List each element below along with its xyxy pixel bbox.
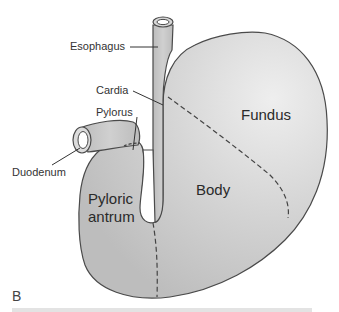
label-pyloric-antrum-line1: Pyloric [88, 190, 134, 207]
caption-cutoff [12, 308, 312, 312]
label-cardia: Cardia [96, 84, 129, 96]
duodenum-leader [52, 148, 80, 165]
label-duodenum: Duodenum [12, 166, 66, 178]
stomach-anatomy-diagram: Esophagus Cardia Pylorus Duodenum Fundus… [0, 0, 339, 312]
stomach-body-shape [79, 32, 327, 298]
label-fundus: Fundus [241, 106, 291, 123]
panel-letter: B [12, 288, 21, 304]
label-esophagus: Esophagus [70, 40, 126, 52]
label-pyloric-antrum-line2: antrum [88, 208, 135, 225]
label-pylorus: Pylorus [96, 106, 133, 118]
label-body: Body [196, 181, 231, 198]
